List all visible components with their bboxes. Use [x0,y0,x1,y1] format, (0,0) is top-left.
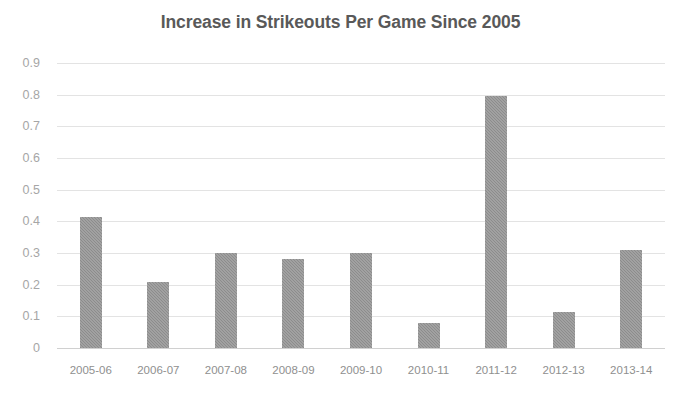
bar-2012-13[interactable] [553,312,575,348]
bar-2006-07[interactable] [147,282,169,349]
y-tick-label: 0.1 [0,310,40,323]
y-tick-label: 0.4 [0,215,40,228]
plot-area: 00.10.20.30.40.50.60.70.80.9 [57,63,665,348]
bar-2010-11[interactable] [418,323,440,348]
chart-title: Increase in Strikeouts Per Game Since 20… [0,12,681,33]
gridline-0.7 [57,126,665,127]
bar-2009-10[interactable] [350,253,372,348]
bar-chart-figure: Increase in Strikeouts Per Game Since 20… [0,0,681,397]
y-tick-label: 0.7 [0,120,40,133]
y-tick-label: 0.3 [0,247,40,260]
y-tick-label: 0.8 [0,88,40,101]
y-tick-label: 0.9 [0,57,40,70]
y-tick-label: 0 [0,342,40,355]
gridline-0.8 [57,95,665,96]
y-tick-label: 0.6 [0,152,40,165]
gridline-0.6 [57,158,665,159]
bar-2013-14[interactable] [620,250,642,348]
gridline-0.9 [57,63,665,64]
y-tick-label: 0.2 [0,278,40,291]
x-axis: 2005-062006-072007-082008-092009-102010-… [57,348,665,388]
bar-2011-12[interactable] [485,96,507,348]
bar-2008-09[interactable] [282,259,304,348]
y-tick-label: 0.5 [0,183,40,196]
bar-2005-06[interactable] [80,217,102,348]
bar-2007-08[interactable] [215,253,237,348]
gridline-0.5 [57,190,665,191]
x-tick-label: 2013-14 [591,364,671,376]
gridline-0.4 [57,221,665,222]
